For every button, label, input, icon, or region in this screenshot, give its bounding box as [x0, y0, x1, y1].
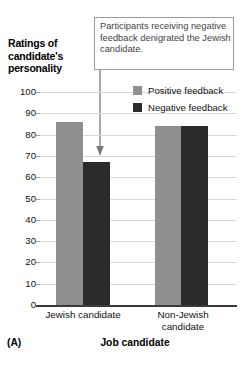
plot-area: [40, 92, 237, 305]
y-tick-50: 50: [8, 194, 36, 204]
y-tick-40: 40: [8, 215, 36, 225]
y-tick-0: 0: [8, 300, 36, 310]
y-tick-60: 60: [8, 172, 36, 182]
legend-label-negative: Negative feedback: [148, 101, 227, 114]
y-tick-20: 20: [8, 257, 36, 267]
legend-swatch-positive-icon: [133, 86, 142, 95]
y-tick-30: 30: [8, 236, 36, 246]
y-tick-70: 70: [8, 151, 36, 161]
panel-label: (A): [7, 337, 21, 348]
bar-nonjewish-negative: [181, 126, 208, 305]
y-tick-100: 100: [8, 87, 36, 97]
y-axis-title: Ratings of candidate's personality: [8, 37, 88, 75]
x-axis-title: Job candidate: [40, 337, 230, 348]
y-tick-10: 10: [8, 279, 36, 289]
x-category-label-jewish: Jewish candidate: [40, 309, 126, 321]
legend-swatch-negative-icon: [133, 103, 142, 112]
callout-box: Participants receiving negative feedback…: [94, 17, 234, 70]
y-tick-90: 90: [8, 108, 36, 118]
legend: Positive feedback Negative feedback: [133, 84, 237, 118]
bar-nonjewish-positive: [155, 126, 181, 305]
legend-label-positive: Positive feedback: [148, 84, 223, 97]
bar-jewish-positive: [56, 122, 83, 305]
y-axis-tick-labels: 100 90 80 70 60 50 40 30 20 10 0: [4, 92, 36, 305]
x-category-label-nonjewish: Non-Jewish candidate: [138, 309, 228, 332]
figure-panel-a: Ratings of candidate's personality Parti…: [0, 0, 246, 372]
bar-jewish-negative: [83, 162, 110, 305]
y-tick-80: 80: [8, 130, 36, 140]
callout-text: Participants receiving negative feedback…: [100, 21, 231, 56]
x-axis-line: [36, 305, 237, 307]
